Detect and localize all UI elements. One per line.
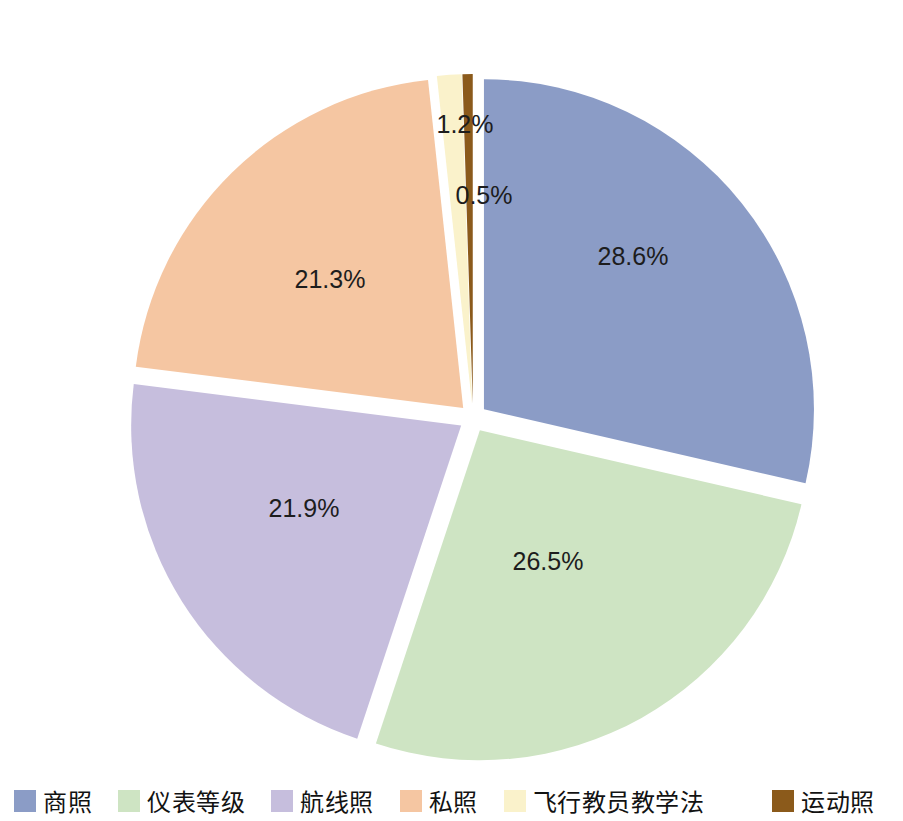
pie-slice[interactable] (484, 79, 814, 483)
legend-item[interactable]: 仪表等级 (118, 783, 245, 818)
pie-slice-label: 28.6% (598, 242, 669, 270)
legend-item-label: 商照 (43, 783, 92, 818)
legend-swatch-icon (118, 790, 140, 812)
pie-slice-label: 21.9% (269, 494, 340, 522)
legend-item[interactable]: 私照 (400, 783, 478, 818)
pie-slice-label: 0.5% (456, 181, 513, 209)
pie-slice-label: 1.2% (437, 110, 494, 138)
legend-swatch-icon (400, 790, 422, 812)
pie-slice-label: 21.3% (295, 265, 366, 293)
pie-plot-area: 28.6%26.5%21.9%21.3%1.2%0.5% (0, 0, 903, 775)
chart-legend: 商照仪表等级航线照私照飞行教员教学法运动照 (0, 780, 903, 821)
legend-swatch-icon (271, 790, 293, 812)
legend-item-label: 航线照 (300, 783, 374, 818)
legend-item-label: 运动照 (801, 783, 875, 818)
legend-swatch-icon (772, 790, 794, 812)
legend-swatch-icon (14, 790, 36, 812)
pie-svg: 28.6%26.5%21.9%21.3%1.2%0.5% (0, 0, 903, 775)
pie-slice[interactable] (136, 80, 463, 408)
legend-swatch-icon (504, 790, 526, 812)
legend-item-label: 飞行教员教学法 (533, 783, 705, 818)
legend-item-label: 仪表等级 (147, 783, 245, 818)
pie-chart-figure: 28.6%26.5%21.9%21.3%1.2%0.5% 商照仪表等级航线照私照… (0, 0, 903, 821)
pie-slice-label: 26.5% (513, 547, 584, 575)
legend-item[interactable]: 商照 (14, 783, 92, 818)
legend-item[interactable]: 飞行教员教学法 (504, 783, 705, 818)
legend-item[interactable]: 航线照 (271, 783, 374, 818)
legend-item-label: 私照 (429, 783, 478, 818)
pie-slices-group (131, 74, 814, 760)
legend-item[interactable]: 运动照 (772, 783, 875, 818)
